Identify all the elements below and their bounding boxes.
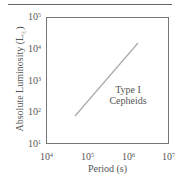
annotation-line-2: Cepheids: [103, 95, 153, 106]
xtick-1e6: 106: [122, 152, 135, 162]
ytick-1e3: 103: [28, 76, 41, 86]
ytick-1e1: 101: [28, 139, 41, 149]
xtick-1e7: 107: [162, 152, 175, 162]
ytick-1e4: 104: [28, 44, 41, 54]
ytick-1e2: 102: [28, 107, 41, 117]
xtick-1e4: 104: [40, 152, 53, 162]
y-axis-label: Absolute Luminosity (L☉): [14, 32, 27, 132]
ytick-1e5: 105: [28, 12, 41, 22]
series-annotation: Type I Cepheids: [103, 84, 153, 106]
xtick-1e5: 105: [81, 152, 94, 162]
annotation-line-1: Type I: [103, 84, 153, 95]
x-axis-label: Period (s): [46, 163, 169, 174]
